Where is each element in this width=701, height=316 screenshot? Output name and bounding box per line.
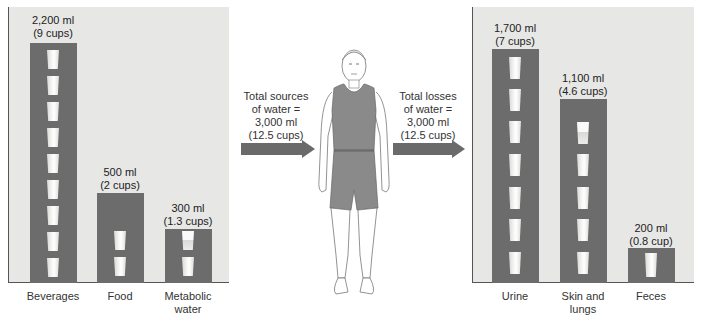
food-ml: 500 ml [75,166,165,179]
food-cups: (2 cups) [75,179,165,192]
cup-icon [47,154,59,173]
metabolic-value: 300 ml (1.3 cups) [143,202,233,228]
metabolic-ml: 300 ml [143,202,233,215]
cup-icon [47,232,59,251]
skin-lungs-ml: 1,100 ml [538,72,628,85]
skin-lungs-value: 1,100 ml (4.6 cups) [538,72,628,98]
label-line: Metabolic [143,290,233,303]
urine-ml: 1,700 ml [470,22,560,35]
skin-lungs-bar [560,99,607,283]
cup-icon [114,231,126,250]
beverages-value: 2,200 ml (9 cups) [8,14,98,40]
feces-cups: (0.8 cup) [606,235,696,248]
feces-value: 200 ml (0.8 cup) [606,222,696,248]
text-line: Total losses [383,90,473,103]
feces-ml: 200 ml [606,222,696,235]
losses-arrow-icon [393,140,465,158]
cup-icon [509,219,521,241]
text-line: of water = [231,103,321,116]
cup-icon [47,76,59,95]
beverages-cups: (9 cups) [8,27,98,40]
label-line: Feces [606,290,696,303]
feces-bar [628,248,675,283]
cup-icon [509,121,521,143]
skin-lungs-cups: (4.6 cups) [538,85,628,98]
cup-icon [509,252,521,274]
cup-icon [47,180,59,199]
sources-arrow-icon [241,140,315,158]
cup-icon [182,257,194,276]
beverages-ml: 2,200 ml [8,14,98,27]
cup-icon [577,154,589,176]
cup-icon [47,206,59,225]
cup-icon [47,50,59,69]
cup-icon [509,89,521,111]
cup-icon [577,252,589,274]
cup-icon [509,57,521,79]
cup-icon [47,102,59,121]
partial-cup-icon [577,122,589,144]
total-sources-text: Total sources of water = 3,000 ml (12.5 … [231,90,321,142]
food-value: 500 ml (2 cups) [75,166,165,192]
label-line-2: water [143,303,233,316]
cup-icon [47,258,59,277]
cup-icon [577,219,589,241]
cup-icon [47,128,59,147]
text-line: 3,000 ml [383,116,473,129]
food-bar [97,193,144,283]
metabolic-label: Metabolic water [143,290,233,316]
cup-icon [114,257,126,276]
metabolic-bar [165,229,212,283]
text-line: of water = [383,103,473,116]
beverages-bar [30,43,77,283]
label-line-2: lungs [538,303,628,316]
metabolic-cups: (1.3 cups) [143,215,233,228]
human-figure-icon [312,40,396,298]
cup-icon [645,253,657,277]
cup-icon [509,154,521,176]
feces-label: Feces [606,290,696,303]
urine-bar [492,49,539,283]
text-line: Total sources [231,90,321,103]
partial-cup-icon [182,231,194,250]
urine-cups: (7 cups) [470,35,560,48]
urine-value: 1,700 ml (7 cups) [470,22,560,48]
cup-icon [577,187,589,209]
cup-icon [509,187,521,209]
text-line: 3,000 ml [231,116,321,129]
total-losses-text: Total losses of water = 3,000 ml (12.5 c… [383,90,473,142]
